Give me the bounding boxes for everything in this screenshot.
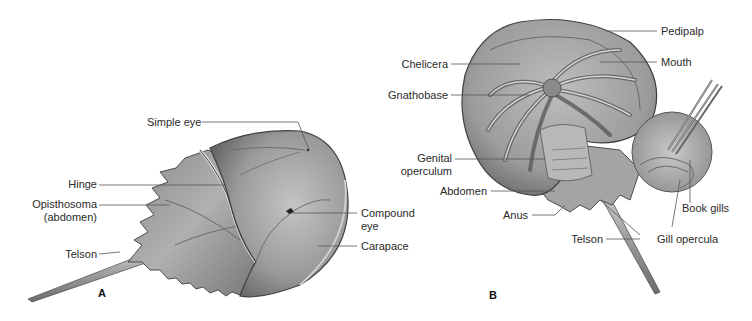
panel-letter-a: A xyxy=(98,287,106,299)
label-gill-opercula: Gill opercula xyxy=(657,233,718,246)
label-genital-operculum: Genital xyxy=(400,152,452,165)
panel-letter-b: B xyxy=(489,289,497,301)
label-abdomen: Abdomen xyxy=(430,185,487,198)
label-gnathobase: Gnathobase xyxy=(380,89,448,102)
label-telson-a: Telson xyxy=(50,248,97,261)
label-anus: Anus xyxy=(490,209,528,222)
label-telson-b: Telson xyxy=(560,233,603,246)
label-opisthosoma-abdomen: (abdomen) xyxy=(20,211,97,224)
illustration xyxy=(0,0,752,321)
label-book-gills: Book gills xyxy=(682,202,729,215)
label-genital-operculum-2: operculum xyxy=(400,165,452,178)
label-mouth: Mouth xyxy=(661,56,692,69)
label-pedipalp: Pedipalp xyxy=(661,25,704,38)
label-compound-eye: Compound xyxy=(361,207,415,220)
label-opisthosoma: Opisthosoma xyxy=(20,198,97,211)
label-carapace: Carapace xyxy=(361,240,409,253)
label-hinge: Hinge xyxy=(60,178,97,191)
label-compound-eye-2: eye xyxy=(361,220,379,233)
label-simple-eye: Simple eye xyxy=(147,116,201,129)
label-chelicera: Chelicera xyxy=(390,58,448,71)
horseshoe-crab-figure: Simple eye Hinge Opisthosoma (abdomen) T… xyxy=(0,0,752,321)
